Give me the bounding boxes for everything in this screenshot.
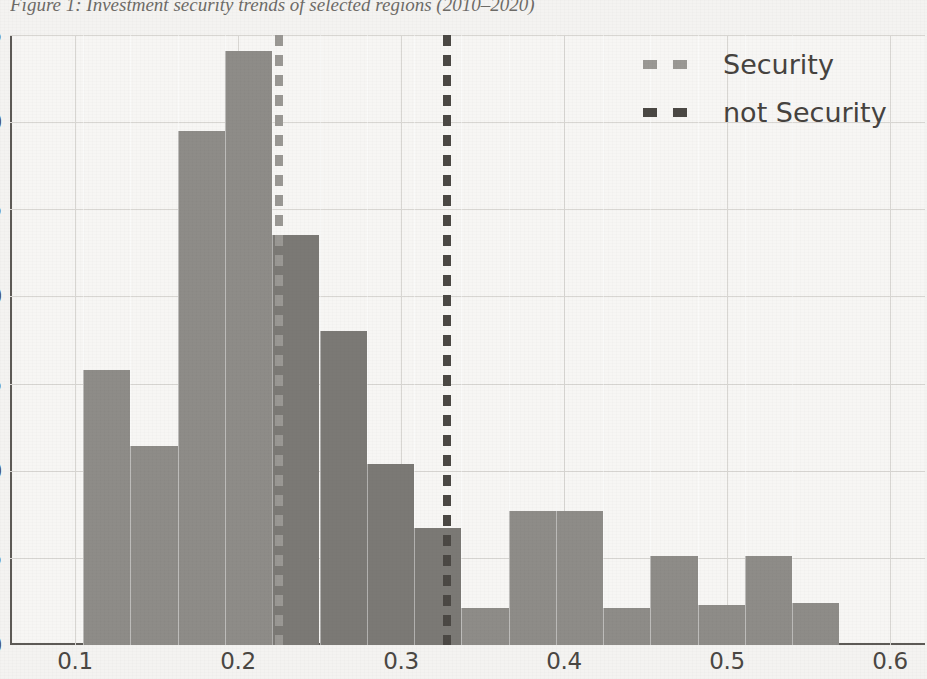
figure-caption: Figure 1: Investment security trends of … [10,0,910,18]
bar-edge [603,35,604,645]
histogram-bar [698,605,745,645]
histogram-bar [225,51,272,645]
x-axis-tick-label: 0.6 [850,648,927,674]
histogram-bar [367,464,414,645]
chart-legend: Securitynot Security [641,40,909,136]
legend-label: Security [723,49,834,80]
histogram-bar [414,528,461,645]
x-axis-tick-label: 0.3 [361,648,441,674]
dashed-line-marker-icon [641,53,699,75]
histogram-bar [745,556,792,645]
histogram-bar [792,603,839,645]
bar-edge [367,35,368,645]
x-axis-tick-label: 0.4 [524,648,604,674]
dashed-line-marker-icon [641,101,699,123]
histogram-bar [650,556,697,645]
y-axis-tick-label: 0.10 [0,458,2,484]
bar-edge [320,35,321,645]
vline-not-security [443,35,451,645]
y-axis-tick-label: 0.05 [0,545,2,571]
bar-edge [509,35,510,645]
histogram-bar [603,608,650,645]
bar-edge [178,35,179,645]
x-axis-tick-label: 0.2 [198,648,278,674]
x-axis-tick-label: 0.5 [687,648,767,674]
bar-edge [130,35,131,645]
legend-item[interactable]: not Security [641,88,909,136]
bar-edge [556,35,557,645]
histogram-bar [556,511,603,645]
bar-edge [414,35,415,645]
histogram-bar [130,446,177,645]
y-axis-tick-label: 0.15 [0,371,2,397]
vline-security [275,35,283,645]
bar-edge [83,35,84,645]
histogram-bar [320,331,367,645]
legend-label: not Security [723,97,887,128]
histogram-bar [509,511,556,645]
histogram-bar [461,608,508,645]
histogram-bar [178,131,225,645]
histogram-bar [83,370,130,645]
y-axis-tick-label: 0.00 [0,632,2,658]
bar-edge [225,35,226,645]
y-axis-tick-label: 0.30 [0,109,2,135]
y-axis-tick-label: 0.20 [0,283,2,309]
bar-edge [461,35,462,645]
bar-edge [272,35,273,645]
y-axis-tick-label: 0.25 [0,196,2,222]
x-axis-tick-label: 0.1 [35,648,115,674]
y-axis-tick-label: 0.35 [0,22,2,48]
legend-item[interactable]: Security [641,40,909,88]
